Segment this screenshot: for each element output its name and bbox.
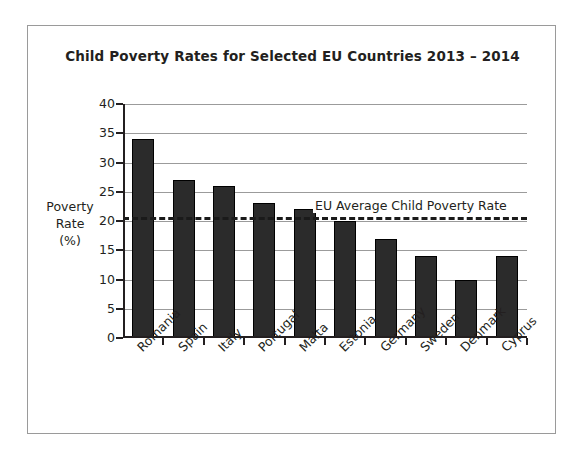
y-axis-tick-label: 30 [85, 155, 115, 170]
bar-estonia [334, 221, 356, 338]
y-axis-tick-labels: 0510152025303540 [79, 104, 115, 338]
y-axis-tick [116, 249, 123, 251]
y-axis-tick [116, 132, 123, 134]
y-axis-line [123, 104, 125, 338]
bar-portugal [253, 203, 275, 338]
y-axis-tick [116, 103, 123, 105]
y-axis-tick [116, 279, 123, 281]
y-axis-tick-label: 20 [85, 213, 115, 228]
y-axis-tick-label: 15 [85, 242, 115, 257]
y-axis-tick [116, 191, 123, 193]
plot-area: EU Average Child Poverty Rate 0510152025… [123, 104, 527, 338]
y-axis-tick-label: 40 [85, 96, 115, 111]
y-axis-tick [116, 308, 123, 310]
y-axis-tick-label: 0 [85, 330, 115, 345]
y-axis-tick-label: 35 [85, 125, 115, 140]
y-axis-tick [116, 220, 123, 222]
figure-frame: Child Poverty Rates for Selected EU Coun… [27, 25, 556, 434]
y-axis-tick-label: 25 [85, 184, 115, 199]
y-axis-tick-label: 5 [85, 301, 115, 316]
eu-average-reference-line [123, 217, 527, 220]
chart-title: Child Poverty Rates for Selected EU Coun… [28, 48, 557, 64]
gridline [123, 104, 527, 105]
eu-average-label: EU Average Child Poverty Rate [313, 198, 509, 213]
bar-italy [213, 186, 235, 338]
y-axis-tick-label: 10 [85, 272, 115, 287]
y-axis-tick [116, 337, 123, 339]
x-axis-tick-labels: RomaniaSpainItalyPortugalMaltaEstoniaGer… [123, 340, 533, 415]
bar-romania [132, 139, 154, 338]
gridline [123, 133, 527, 134]
gridline [123, 163, 527, 164]
y-axis-tick [116, 162, 123, 164]
